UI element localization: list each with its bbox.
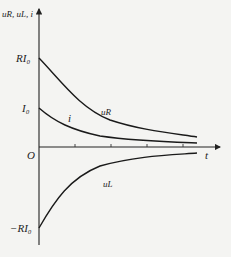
curve-i (39, 108, 197, 143)
curve-label-i: i (68, 112, 71, 124)
origin-label: O (27, 149, 35, 161)
x-axis-label: t (205, 149, 209, 161)
curve-ul (39, 153, 197, 228)
curve-label-ur: uR (101, 107, 112, 117)
curve-ur (39, 58, 197, 137)
curve-label-ul: uL (103, 179, 113, 189)
tick-label-i0: I₀ (21, 102, 30, 114)
tick-label-neg-ri0: −RI₀ (10, 222, 32, 234)
y-axis-label: uR, uL, i (2, 9, 34, 19)
rl-transient-chart: uR, uL, i t O RI₀ I₀ −RI₀ uR i uL (0, 0, 231, 257)
tick-label-ri0: RI₀ (15, 52, 30, 64)
